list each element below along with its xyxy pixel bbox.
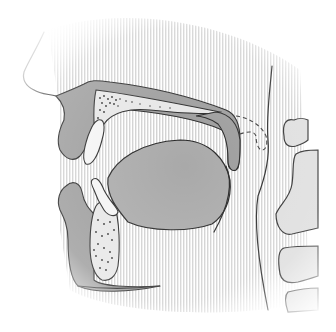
anatomy-diagram	[0, 0, 336, 332]
edge-fade-overlay	[0, 0, 336, 332]
sagittal-head-illustration	[0, 0, 336, 332]
